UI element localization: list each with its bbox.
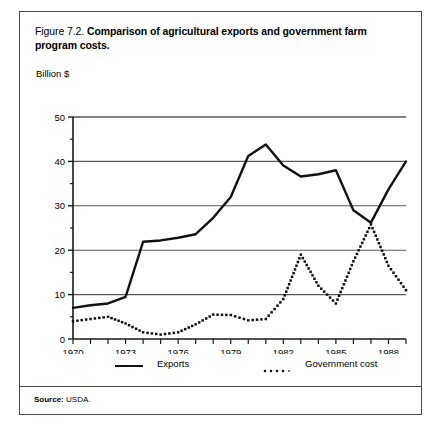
svg-text:1988: 1988 <box>378 347 399 354</box>
svg-text:40: 40 <box>54 156 65 167</box>
legend-dotted-line-icon <box>263 364 293 367</box>
figure-caption: Figure 7.2. Comparison of agricultural e… <box>35 24 403 52</box>
svg-text:1982: 1982 <box>273 347 294 354</box>
line-chart-svg: 01020304050 1970197319761979198219851988 <box>20 84 421 354</box>
x-tick-labels: 1970197319761979198219851988 <box>62 347 399 354</box>
svg-text:20: 20 <box>54 245 65 256</box>
svg-text:10: 10 <box>54 289 65 300</box>
figure-frame: Figure 7.2. Comparison of agricultural e… <box>19 11 422 415</box>
legend-label-exports: Exports <box>157 358 189 369</box>
svg-text:1979: 1979 <box>220 347 241 354</box>
y-axis-title: Billion $ <box>36 68 69 79</box>
source-label: Source: <box>34 395 64 404</box>
svg-text:1973: 1973 <box>115 347 136 354</box>
series-government-cost <box>72 223 408 336</box>
source-line: Source: USDA. <box>34 395 90 404</box>
svg-text:30: 30 <box>54 200 65 211</box>
source-divider <box>20 386 421 387</box>
svg-text:1976: 1976 <box>168 347 189 354</box>
series-exports <box>73 145 406 308</box>
svg-text:1985: 1985 <box>325 347 346 354</box>
svg-text:50: 50 <box>54 112 65 123</box>
figure-number: Figure 7.2. <box>35 25 84 37</box>
chart-legend: Exports Government cost <box>20 357 421 379</box>
figure-title: Comparison of agricultural exports and g… <box>35 25 367 51</box>
y-axis <box>68 117 73 339</box>
source-value: USDA. <box>66 395 90 404</box>
legend-solid-line-icon <box>115 365 143 367</box>
grid-lines <box>73 117 406 295</box>
y-tick-labels: 01020304050 <box>54 112 65 345</box>
svg-text:0: 0 <box>60 334 65 345</box>
svg-text:1970: 1970 <box>62 347 83 354</box>
chart-plot-area: 01020304050 1970197319761979198219851988 <box>20 84 421 354</box>
legend-label-government-cost: Government cost <box>305 358 377 369</box>
x-axis <box>73 339 406 344</box>
